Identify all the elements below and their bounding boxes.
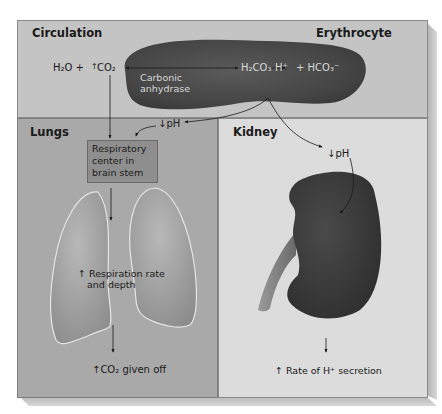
- co2-label: CO₂: [97, 62, 116, 73]
- resp-center-line1: Respiratory: [92, 143, 153, 155]
- lungs-title: Lungs: [30, 125, 69, 139]
- kidney-ph-label: ↓pH: [327, 148, 349, 159]
- resp-rate-line2: and depth: [87, 279, 136, 290]
- circulation-title: Circulation: [32, 26, 102, 40]
- enzyme-label-line1: Carbonic: [140, 72, 182, 83]
- kidney-organ: [287, 172, 381, 319]
- resp-rate-line1: ↑ Respiration rate: [78, 268, 165, 279]
- h-secretion-label: ↑ Rate of H⁺ secretion: [275, 365, 382, 376]
- lungs-ph-label: ↓pH: [158, 118, 180, 129]
- kidney-title: Kidney: [233, 125, 278, 139]
- carbonic-acid-label: H₂CO₃: [241, 62, 271, 73]
- water-label: H₂O +: [53, 62, 84, 73]
- resp-center-line2: center in: [92, 155, 153, 167]
- bicarbonate-label: + HCO₃⁻: [296, 62, 339, 73]
- resp-center-line3: brain stem: [92, 167, 153, 179]
- hydrogen-ion-label: H⁺: [275, 62, 288, 73]
- enzyme-label-line2: anhydrase: [140, 83, 190, 94]
- right-lung: [130, 188, 197, 327]
- respiratory-center-box: Respiratory center in brain stem: [87, 140, 158, 183]
- erythrocyte-title: Erythrocyte: [316, 26, 392, 40]
- co2-given-off-label: ↑CO₂ given off: [92, 364, 166, 375]
